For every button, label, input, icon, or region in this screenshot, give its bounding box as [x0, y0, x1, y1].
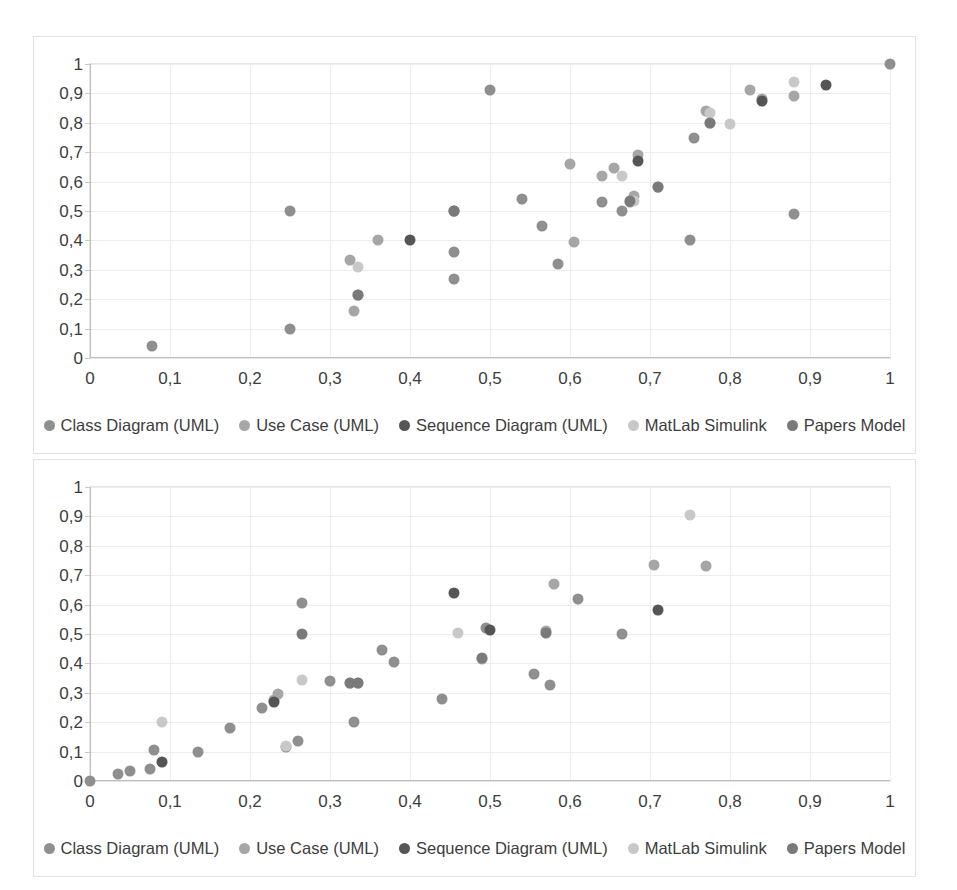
data-point — [405, 235, 416, 246]
legend-label: Use Case (UML) — [256, 416, 379, 435]
data-point — [269, 696, 280, 707]
data-point — [157, 717, 168, 728]
data-point — [285, 323, 296, 334]
y-axis-tick-label: 0,4 — [59, 655, 83, 672]
data-point — [549, 579, 560, 590]
x-axis-tick-label: 0,7 — [638, 370, 662, 387]
gridline-vertical — [810, 487, 811, 781]
legend-item[interactable]: Use Case (UML) — [239, 416, 379, 435]
y-axis-tick-label: 0,5 — [59, 203, 83, 220]
data-point — [297, 674, 308, 685]
legend-marker-icon — [239, 843, 250, 854]
data-point — [617, 629, 628, 640]
plot-wrapper-top: 00,10,20,30,40,50,60,70,80,9100,10,20,30… — [34, 37, 915, 377]
data-point — [477, 652, 488, 663]
legend-marker-icon — [787, 843, 798, 854]
legend-label: Class Diagram (UML) — [61, 839, 220, 858]
legend-marker-icon — [399, 843, 410, 854]
x-axis-tick-label: 0,2 — [238, 370, 262, 387]
legend-label: Papers Model — [804, 416, 906, 435]
legend-marker-icon — [787, 420, 798, 431]
x-axis-tick-label: 0,7 — [638, 793, 662, 810]
gridline-vertical — [330, 64, 331, 358]
data-point — [745, 85, 756, 96]
data-point — [617, 170, 628, 181]
data-point — [145, 764, 156, 775]
data-point — [377, 645, 388, 656]
data-point — [573, 593, 584, 604]
legend-label: Class Diagram (UML) — [61, 416, 220, 435]
gridline-vertical — [490, 64, 491, 358]
data-point — [757, 95, 768, 106]
y-axis-tick-label: 1 — [74, 56, 83, 73]
legend-marker-icon — [399, 420, 410, 431]
data-point — [685, 235, 696, 246]
data-point — [281, 740, 292, 751]
gridline-vertical — [650, 487, 651, 781]
legend-label: Sequence Diagram (UML) — [416, 839, 608, 858]
y-axis-tick-label: 0,8 — [59, 537, 83, 554]
data-point — [437, 693, 448, 704]
data-point — [529, 668, 540, 679]
gridline-vertical — [250, 487, 251, 781]
y-axis-tick-label: 0,1 — [59, 743, 83, 760]
data-point — [485, 624, 496, 635]
x-axis-tick-label: 0,4 — [398, 370, 422, 387]
data-point — [689, 132, 700, 143]
data-point — [85, 776, 96, 787]
legend-item[interactable]: MatLab Simulink — [628, 416, 767, 435]
x-axis-tick-label: 0,5 — [478, 370, 502, 387]
data-point — [565, 158, 576, 169]
x-axis-tick-label: 0,5 — [478, 793, 502, 810]
data-point — [537, 220, 548, 231]
plot-wrapper-bottom: 00,10,20,30,40,50,60,70,80,9100,10,20,30… — [34, 460, 915, 800]
legend-item[interactable]: Sequence Diagram (UML) — [399, 416, 608, 435]
gridline-vertical — [250, 64, 251, 358]
data-point — [821, 79, 832, 90]
y-axis-line — [90, 487, 91, 781]
data-point — [257, 702, 268, 713]
y-axis-tick-label: 0,4 — [59, 232, 83, 249]
y-axis-tick-label: 0,7 — [59, 144, 83, 161]
x-axis-tick-label: 0,3 — [318, 793, 342, 810]
y-axis-tick-label: 0,6 — [59, 173, 83, 190]
x-axis-tick-label: 0,1 — [158, 793, 182, 810]
legend-item[interactable]: Papers Model — [787, 416, 906, 435]
data-point — [449, 273, 460, 284]
legend-marker-icon — [44, 420, 55, 431]
legend-label: Papers Model — [804, 839, 906, 858]
scatter-chart-bottom: 00,10,20,30,40,50,60,70,80,9100,10,20,30… — [33, 459, 916, 877]
y-tick-mark — [85, 358, 90, 359]
legend-top: Class Diagram (UML)Use Case (UML)Sequenc… — [34, 416, 915, 435]
legend-item[interactable]: MatLab Simulink — [628, 839, 767, 858]
x-axis-tick-label: 0,3 — [318, 370, 342, 387]
legend-marker-icon — [628, 843, 639, 854]
data-point — [193, 746, 204, 757]
legend-bottom: Class Diagram (UML)Use Case (UML)Sequenc… — [34, 839, 915, 858]
legend-item[interactable]: Sequence Diagram (UML) — [399, 839, 608, 858]
data-point — [157, 756, 168, 767]
data-point — [885, 59, 896, 70]
data-point — [149, 745, 160, 756]
data-point — [453, 627, 464, 638]
data-point — [597, 170, 608, 181]
data-point — [789, 91, 800, 102]
legend-item[interactable]: Papers Model — [787, 839, 906, 858]
data-point — [449, 587, 460, 598]
legend-item[interactable]: Use Case (UML) — [239, 839, 379, 858]
x-axis-tick-label: 0 — [85, 370, 94, 387]
x-axis-tick-label: 0,8 — [718, 793, 742, 810]
legend-item[interactable]: Class Diagram (UML) — [44, 839, 220, 858]
legend-item[interactable]: Class Diagram (UML) — [44, 416, 220, 435]
gridline-vertical — [890, 64, 891, 358]
gridline-vertical — [410, 487, 411, 781]
data-point — [649, 559, 660, 570]
x-axis-tick-label: 0,6 — [558, 370, 582, 387]
data-point — [353, 289, 364, 300]
gridline-vertical — [890, 487, 891, 781]
data-point — [113, 768, 124, 779]
legend-marker-icon — [239, 420, 250, 431]
plot-area-top: 00,10,20,30,40,50,60,70,80,9100,10,20,30… — [89, 63, 891, 359]
data-point — [373, 235, 384, 246]
plot-area-bottom: 00,10,20,30,40,50,60,70,80,9100,10,20,30… — [89, 486, 891, 782]
